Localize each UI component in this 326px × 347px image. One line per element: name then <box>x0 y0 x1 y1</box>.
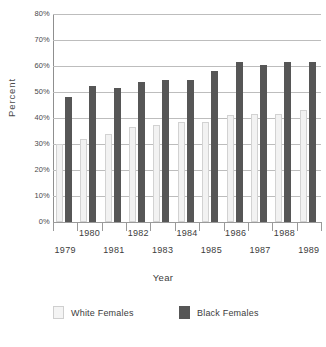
bar-white-females-1984 <box>178 122 185 222</box>
bar-black-females-1985 <box>211 71 218 222</box>
bar-group-1984 <box>178 14 198 222</box>
legend-item-white-females: White Females <box>53 306 134 319</box>
y-tick-label-50: 50% <box>16 87 50 96</box>
bar-group-1987 <box>251 14 271 222</box>
bar-white-females-1982 <box>129 127 136 222</box>
bar-white-females-1988 <box>275 114 282 222</box>
bar-white-females-1981 <box>105 134 112 222</box>
y-tick-label-70: 70% <box>16 35 50 44</box>
bar-white-females-1986 <box>227 115 234 222</box>
x-tick-label-1984: 1984 <box>167 228 207 238</box>
bar-black-females-1983 <box>162 80 169 222</box>
y-tick-label-20: 20% <box>16 165 50 174</box>
bar-white-females-1980 <box>80 139 87 222</box>
y-tick-label-0: 0% <box>16 217 50 226</box>
bar-white-females-1983 <box>153 125 160 223</box>
y-tick-label-40: 40% <box>16 113 50 122</box>
bar-group-1983 <box>153 14 173 222</box>
x-tick-label-1982: 1982 <box>118 228 158 238</box>
y-tick-label-60: 60% <box>16 61 50 70</box>
bar-group-1979 <box>56 14 76 222</box>
x-tick-label-1979: 1979 <box>45 245 85 255</box>
legend-label-black-females: Black Females <box>197 308 259 318</box>
y-axis-tick-labels: 80%70%60%50%40%30%20%10%0% <box>12 0 50 240</box>
chart-legend: White Females Black Females <box>0 306 326 330</box>
legend-item-black-females: Black Females <box>179 306 259 319</box>
x-tick-label-1986: 1986 <box>216 228 256 238</box>
bar-group-1980 <box>80 14 100 222</box>
bar-black-females-1987 <box>260 65 267 222</box>
bar-black-females-1981 <box>114 88 121 222</box>
plot-area <box>53 14 321 222</box>
bar-black-females-1984 <box>187 80 194 222</box>
bar-black-females-1979 <box>65 97 72 222</box>
legend-swatch-white-icon <box>53 306 64 319</box>
bar-white-females-1989 <box>300 110 307 222</box>
bar-group-1989 <box>300 14 320 222</box>
bar-chart: Percent 80%70%60%50%40%30%20%10%0% 19791… <box>0 0 326 347</box>
y-tick-label-80: 80% <box>16 9 50 18</box>
x-tick-label-1987: 1987 <box>240 245 280 255</box>
bar-group-1986 <box>227 14 247 222</box>
bar-white-females-1985 <box>202 122 209 222</box>
bar-black-females-1988 <box>284 62 291 222</box>
y-tick-label-30: 30% <box>16 139 50 148</box>
y-tick-label-10: 10% <box>16 191 50 200</box>
legend-swatch-black-icon <box>179 306 190 319</box>
bar-group-1988 <box>275 14 295 222</box>
bar-black-females-1982 <box>138 82 145 222</box>
x-tick-label-1989: 1989 <box>289 245 326 255</box>
bar-group-1985 <box>202 14 222 222</box>
bar-white-females-1979 <box>56 144 63 222</box>
legend-label-white-females: White Females <box>71 308 134 318</box>
bar-black-females-1989 <box>309 62 316 222</box>
bar-group-1981 <box>105 14 125 222</box>
bar-white-females-1987 <box>251 114 258 222</box>
x-tick-label-1988: 1988 <box>264 228 304 238</box>
bar-group-1982 <box>129 14 149 222</box>
x-axis-title: Year <box>0 272 326 283</box>
bar-black-females-1980 <box>89 86 96 223</box>
x-tick-label-1981: 1981 <box>94 245 134 255</box>
bar-black-females-1986 <box>236 62 243 222</box>
x-tick-label-1983: 1983 <box>143 245 183 255</box>
x-axis-tick-labels: 1979198019811982198319841985198619871988… <box>0 228 326 272</box>
x-tick-label-1980: 1980 <box>70 228 110 238</box>
x-tick-label-1985: 1985 <box>191 245 231 255</box>
